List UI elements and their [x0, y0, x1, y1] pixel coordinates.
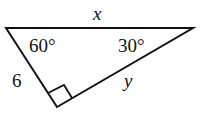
label-angle-60: 60° — [29, 35, 56, 56]
label-angle-30: 30° — [118, 35, 145, 56]
right-angle-marker — [48, 85, 72, 98]
label-side-6: 6 — [12, 70, 22, 91]
triangle-diagram: x 60° 30° 6 y — [0, 0, 210, 120]
label-side-y: y — [122, 70, 133, 91]
label-hypotenuse-x: x — [92, 3, 102, 24]
